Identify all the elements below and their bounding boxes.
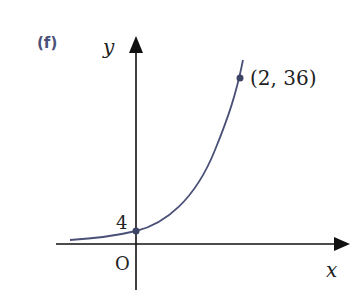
- point-2-36: [237, 75, 244, 82]
- origin-label: O: [115, 253, 130, 274]
- graph: y x 4 O (2, 36): [0, 0, 355, 304]
- point-y-intercept: [133, 228, 140, 235]
- y-axis-label: y: [102, 35, 115, 59]
- x-axis-arrow-icon: [334, 237, 350, 251]
- x-axis-label: x: [326, 258, 337, 282]
- exponential-curve: [70, 60, 243, 240]
- y-axis-arrow-icon: [129, 36, 143, 53]
- y-intercept-label: 4: [116, 212, 127, 233]
- point-label: (2, 36): [250, 66, 317, 90]
